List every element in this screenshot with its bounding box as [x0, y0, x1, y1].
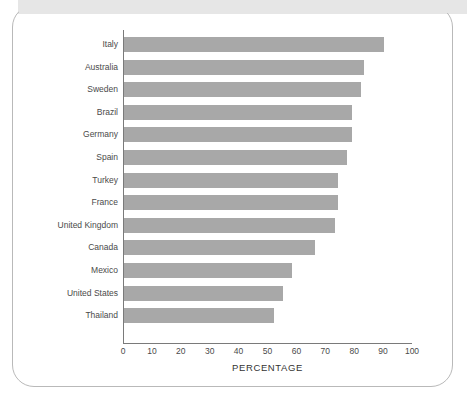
x-tick-label: 50 [253, 346, 283, 356]
bar-row: Thailand [0, 307, 467, 330]
x-tick-label: 90 [368, 346, 398, 356]
bar-row: Sweden [0, 81, 467, 104]
bar-row: Mexico [0, 262, 467, 285]
x-tick-label: 60 [281, 346, 311, 356]
bar-row: United Kingdom [0, 217, 467, 240]
category-label: Mexico [0, 263, 118, 278]
category-label: France [0, 195, 118, 210]
y-axis-line [123, 30, 124, 343]
category-label: United States [0, 286, 118, 301]
x-tick-label: 70 [310, 346, 340, 356]
bar [124, 195, 338, 210]
x-tick-label: 80 [339, 346, 369, 356]
chart-page: ItalyAustraliaSwedenBrazilGermanySpainTu… [0, 0, 467, 398]
bar-row: Spain [0, 149, 467, 172]
category-label: Canada [0, 240, 118, 255]
x-tick-label: 30 [195, 346, 225, 356]
bar [124, 82, 361, 97]
bar [124, 240, 315, 255]
bar-row: Germany [0, 126, 467, 149]
bar-row: United States [0, 285, 467, 308]
bar-row: Australia [0, 59, 467, 82]
bar-row: France [0, 194, 467, 217]
x-axis-title: PERCENTAGE [123, 362, 412, 373]
bar [124, 286, 283, 301]
category-label: Sweden [0, 82, 118, 97]
bar-row: Brazil [0, 104, 467, 127]
bar-chart: ItalyAustraliaSwedenBrazilGermanySpainTu… [0, 0, 467, 398]
bar [124, 105, 352, 120]
bar-row: Canada [0, 239, 467, 262]
bar [124, 37, 384, 52]
category-label: Australia [0, 60, 118, 75]
x-tick-label: 40 [224, 346, 254, 356]
category-label: Italy [0, 37, 118, 52]
bar-row: Turkey [0, 172, 467, 195]
bar [124, 308, 274, 323]
x-tick-label: 100 [397, 346, 427, 356]
bar [124, 127, 352, 142]
category-label: Germany [0, 127, 118, 142]
x-tick-label: 10 [137, 346, 167, 356]
bar [124, 263, 292, 278]
bar-row: Italy [0, 36, 467, 59]
category-label: Turkey [0, 173, 118, 188]
category-label: Thailand [0, 308, 118, 323]
x-tick-label: 0 [108, 346, 138, 356]
x-axis-line [123, 343, 412, 344]
bar [124, 60, 364, 75]
bar [124, 218, 335, 233]
category-label: United Kingdom [0, 218, 118, 233]
bar [124, 150, 347, 165]
x-tick-label: 20 [166, 346, 196, 356]
category-label: Brazil [0, 105, 118, 120]
category-label: Spain [0, 150, 118, 165]
bar [124, 173, 338, 188]
